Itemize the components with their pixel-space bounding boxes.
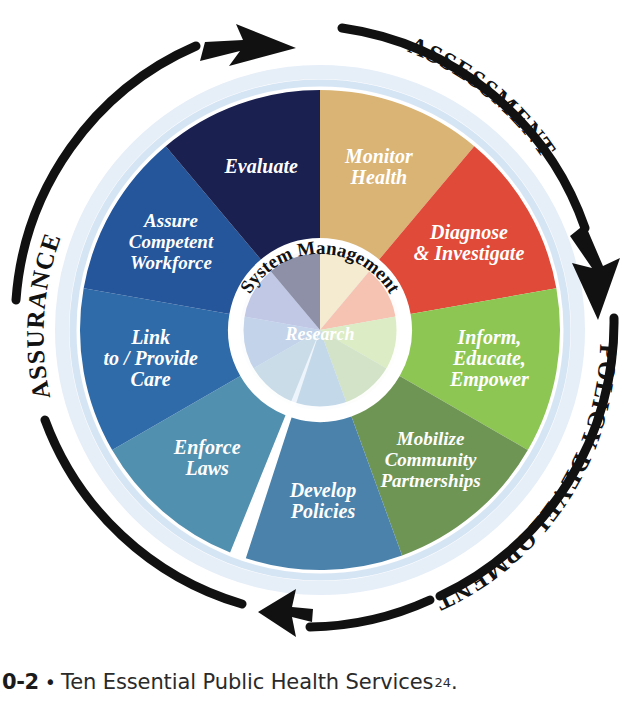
wedge-label-inform-educate-empower: Inform,Educate,Empower (449, 325, 529, 390)
caption-bullet: • (45, 671, 56, 693)
arrow-head-top (200, 24, 296, 66)
wedge-label-diagnose-investigate: Diagnose& Investigate (414, 220, 525, 264)
caption-number: 0-2 (2, 670, 39, 694)
figure-container: System Management Research MonitorHealth… (0, 0, 641, 660)
ten-essential-services-wheel: System Management Research MonitorHealth… (0, 0, 641, 660)
bottom-arc (310, 600, 430, 627)
caption-superscript: 24 (434, 675, 451, 690)
wedge-label-develop-policies: DevelopPolicies (289, 478, 357, 521)
arrow-head-bottom (258, 589, 313, 637)
caption-period: . (451, 670, 458, 694)
wedge-label-evaluate: Evaluate (224, 155, 298, 177)
hub-center-label: Research (285, 324, 355, 344)
figure-caption: 0-2 • Ten Essential Public Health Servic… (0, 662, 641, 702)
wedge-label-monitor-health: MonitorHealth (344, 144, 413, 187)
caption-text: Ten Essential Public Health Services (61, 670, 433, 694)
